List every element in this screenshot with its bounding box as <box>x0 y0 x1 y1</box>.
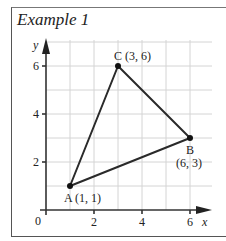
x-tick-label: 4 <box>139 215 145 229</box>
x-tick-label: 2 <box>91 215 97 229</box>
y-tick-label: 4 <box>33 107 39 121</box>
point-b-coords: (6, 3) <box>176 156 202 170</box>
origin-label: 0 <box>35 214 41 228</box>
triangle-abc <box>70 66 190 186</box>
y-tick-label: 6 <box>33 59 39 73</box>
coordinate-plot: y x 0 2 4 6 2 4 6 A (1, 1) B (6, 3) C (3… <box>0 0 226 241</box>
point-b <box>187 135 193 141</box>
y-axis-arrow-icon <box>42 38 50 54</box>
x-axis-label: x <box>201 215 208 229</box>
point-b-label: B <box>186 143 194 157</box>
point-c <box>115 63 121 69</box>
point-c-label: C (3, 6) <box>114 49 151 63</box>
point-a <box>67 183 73 189</box>
y-tick-label: 2 <box>33 155 39 169</box>
y-axis-label: y <box>32 38 39 52</box>
x-axis-arrow-icon <box>196 206 212 214</box>
point-a-label: A (1, 1) <box>64 191 101 205</box>
x-tick-label: 6 <box>187 215 193 229</box>
